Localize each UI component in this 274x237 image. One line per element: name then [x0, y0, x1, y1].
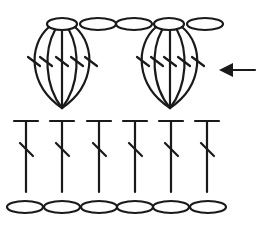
cluster-top-chain: [47, 18, 77, 30]
chain-stitch: [187, 18, 223, 30]
arrow-left-icon: [219, 63, 255, 77]
double-crochet-row: [14, 121, 219, 192]
cluster-stitch: [28, 27, 97, 108]
chain-stitch: [116, 18, 152, 30]
chain-stitch: [117, 201, 153, 213]
cluster-row: [28, 18, 223, 108]
double-crochet-stitch: [50, 121, 74, 192]
cluster-stitch: [137, 27, 204, 108]
double-crochet-stitch: [123, 121, 147, 192]
chain-stitch: [81, 201, 117, 213]
double-crochet-stitch: [195, 121, 219, 192]
cluster-top-chain: [154, 18, 184, 30]
crochet-diagram: [0, 0, 274, 237]
chain-stitch: [190, 201, 226, 213]
chain-stitch: [153, 201, 189, 213]
double-crochet-stitch: [87, 121, 111, 192]
double-crochet-stitch: [14, 121, 38, 192]
chain-stitch: [7, 201, 43, 213]
chain-stitch: [80, 18, 116, 30]
chain-stitch: [44, 201, 80, 213]
double-crochet-stitch: [159, 121, 183, 192]
foundation-chain-row: [7, 201, 226, 213]
